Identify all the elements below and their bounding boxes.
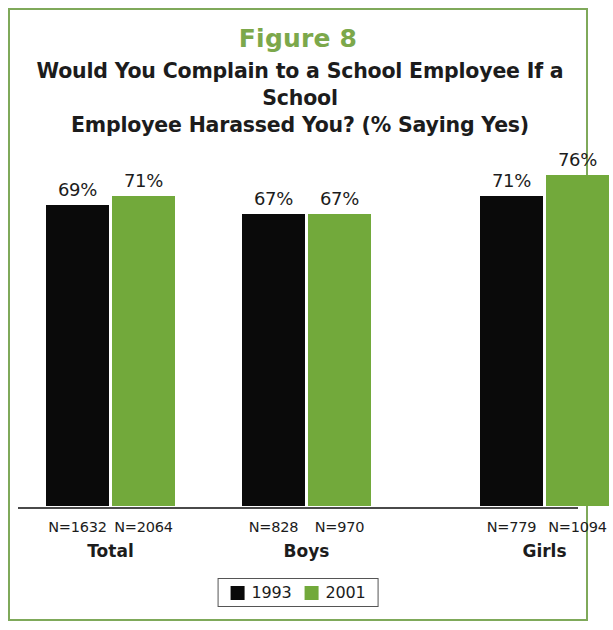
plot-area: 69%N=163271%N=2064Total67%N=82867%N=970B… xyxy=(10,10,586,619)
bar-total-1993 xyxy=(46,205,109,506)
bar-value-boys-2001: 67% xyxy=(300,188,379,209)
legend-swatch-1993 xyxy=(231,586,245,600)
group-label-total: Total xyxy=(36,541,185,561)
x-axis-line xyxy=(18,507,578,509)
n-label-girls-2001: N=1094 xyxy=(536,519,613,535)
legend-item-1993: 1993 xyxy=(231,583,292,602)
bar-value-girls-2001: 76% xyxy=(538,149,613,170)
bar-boys-2001 xyxy=(308,214,371,506)
bar-total-2001 xyxy=(112,196,175,506)
legend-label-1993: 1993 xyxy=(252,583,292,602)
legend-item-2001: 2001 xyxy=(305,583,366,602)
bar-girls-2001 xyxy=(546,175,609,506)
group-label-girls: Girls xyxy=(470,541,613,561)
legend-swatch-2001 xyxy=(305,586,319,600)
chart-legend: 1993 2001 xyxy=(218,578,379,607)
n-label-total-2001: N=2064 xyxy=(102,519,185,535)
legend-label-2001: 2001 xyxy=(326,583,366,602)
bar-value-total-2001: 71% xyxy=(104,170,183,191)
group-label-boys: Boys xyxy=(232,541,381,561)
figure-frame: Figure 8 Would You Complain to a School … xyxy=(8,8,588,621)
bar-girls-1993 xyxy=(480,196,543,506)
bar-boys-1993 xyxy=(242,214,305,506)
bar-value-girls-1993: 71% xyxy=(472,170,551,191)
n-label-boys-2001: N=970 xyxy=(298,519,381,535)
